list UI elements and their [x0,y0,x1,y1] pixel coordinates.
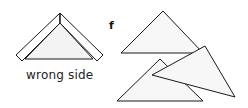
diagram-canvas [0,0,248,108]
wrong-side-caption: wrong side [26,68,93,82]
wrong-side-triangle [16,13,103,61]
triangles-group-f [117,11,235,101]
triangle-top [121,11,203,53]
figure-label-f: f [109,19,114,32]
